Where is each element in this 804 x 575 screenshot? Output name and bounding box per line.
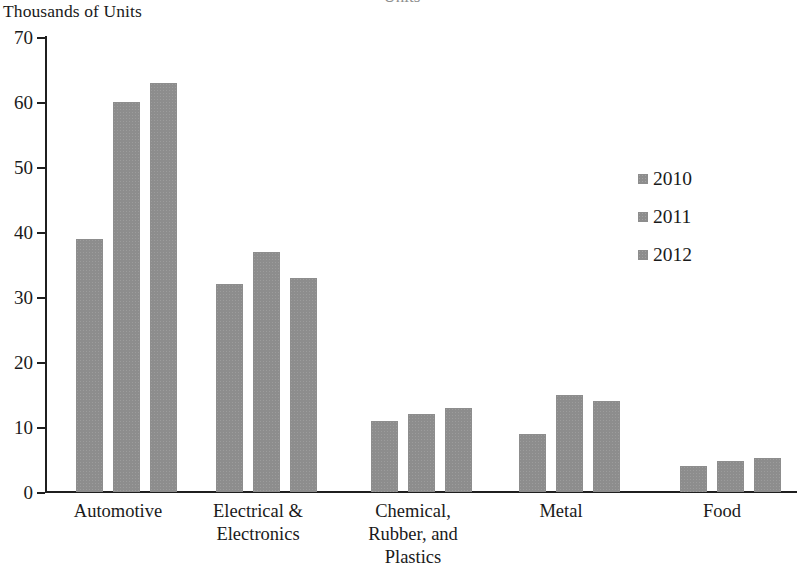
bar	[408, 414, 435, 492]
y-axis-caption: Thousands of Units	[3, 1, 142, 22]
y-axis-tick-label: 40	[14, 223, 33, 242]
y-axis-tick-label: 70	[14, 28, 33, 47]
bar	[556, 395, 583, 493]
y-axis-tick-mark	[37, 362, 45, 364]
bar	[593, 401, 620, 492]
legend-swatch-icon	[638, 250, 648, 260]
y-axis-tick-mark	[37, 427, 45, 429]
bar	[371, 421, 398, 493]
bar	[717, 461, 744, 492]
y-axis-tick-mark	[37, 232, 45, 234]
x-axis-category-label: Metal	[471, 500, 651, 523]
bar	[290, 278, 317, 493]
y-axis-tick-label: 60	[14, 93, 33, 112]
bar	[253, 252, 280, 493]
bar	[113, 102, 140, 492]
bar	[519, 434, 546, 493]
y-axis-tick-mark	[37, 167, 45, 169]
x-axis-category-label: Food	[632, 500, 804, 523]
bar	[76, 239, 103, 493]
y-axis-tick-label: 10	[14, 418, 33, 437]
legend-label: 2011	[653, 207, 691, 227]
bar	[150, 83, 177, 493]
y-axis-tick-mark	[37, 102, 45, 104]
y-axis-tick-mark	[37, 492, 45, 494]
y-axis-tick-mark	[37, 297, 45, 299]
bar	[680, 466, 707, 492]
bar	[216, 284, 243, 492]
legend-item: 2011	[638, 198, 692, 236]
legend-swatch-icon	[638, 174, 648, 184]
legend-item: 2010	[638, 160, 692, 198]
legend-swatch-icon	[638, 212, 648, 222]
y-axis-tick-label: 20	[14, 353, 33, 372]
y-axis-tick-label: 50	[14, 158, 33, 177]
x-axis-category-label: Electrical & Electronics	[168, 500, 348, 546]
legend-label: 2010	[653, 169, 692, 189]
legend: 201020112012	[638, 160, 692, 274]
bar	[445, 408, 472, 493]
y-axis-tick-label: 30	[14, 288, 33, 307]
bar-chart: Units Thousands of Units 010203040506070…	[0, 0, 804, 575]
bar	[754, 458, 781, 492]
legend-item: 2012	[638, 236, 692, 274]
legend-label: 2012	[653, 245, 692, 265]
y-axis-tick-mark	[37, 37, 45, 39]
y-axis-tick-label: 0	[24, 483, 34, 502]
